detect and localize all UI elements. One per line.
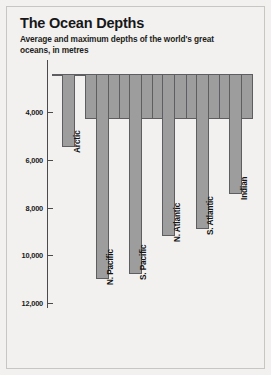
y-axis-line [47,60,48,308]
bar-category-label: S. Pacific [139,245,148,280]
bar-slot[interactable]: N. Atlantic [152,0,185,375]
chart-figure: The Ocean Depths Average and maximum dep… [0,0,271,375]
bar-category-label: N. Pacific [106,249,115,285]
bar-slot[interactable]: S. Pacific [119,0,152,375]
y-tick-label: 10,000 [13,251,43,260]
bar-category-label: N. Atlantic [173,203,182,242]
bar-slot[interactable]: S. Atlantic [186,0,219,375]
bar-category-label: S. Atlantic [206,196,215,235]
y-tick-label: 4,000 [13,108,43,117]
bar-slot[interactable]: Indian [219,0,252,375]
bar-slot[interactable]: N. Pacific [85,0,118,375]
y-tick-label: 8,000 [13,204,43,213]
y-tick-label: 6,000 [13,156,43,165]
bar-category-label: Arctic [73,130,82,153]
bar-slot[interactable]: Arctic [52,0,85,375]
y-tick-label: 12,000 [13,299,43,308]
plot-area: 4,0006,0008,00010,00012,000 ArcticN. Pac… [0,0,271,375]
bar-category-label: Indian [240,177,249,201]
